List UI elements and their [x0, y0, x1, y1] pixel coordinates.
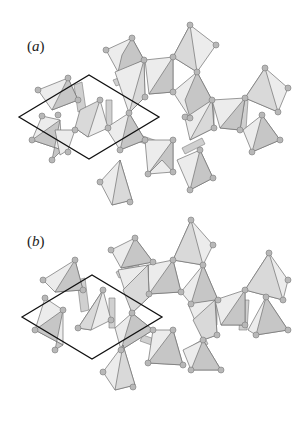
crystal-structure-b: [0, 200, 306, 425]
panel-b: (b): [0, 200, 306, 425]
panel-a: (a): [0, 0, 306, 212]
crystal-structure-a: [0, 0, 306, 212]
